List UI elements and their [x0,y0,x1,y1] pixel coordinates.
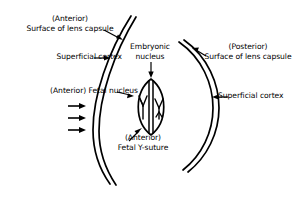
label-anterior-lens-capsule: (Anterior) Surface of lens capsule [18,14,122,33]
label-superficial-cortex-left: Superficial cortex [18,52,122,62]
label-posterior-lens-capsule: (Posterior) Surface of lens capsule [196,42,300,61]
label-embryonic-nucleus-line2: nucleus [112,52,188,62]
light-arrow-2 [68,115,86,121]
light-arrow-1 [68,103,86,109]
light-arrow-3 [68,127,86,133]
label-anterior-fetal-y-suture-line1: (Anterior) [96,133,190,143]
label-anterior-fetal-y-suture-line2: Fetal Y-suture [96,143,190,153]
incident-light-arrows [68,103,86,133]
lens-anatomy-figure: (Anterior) Surface of lens capsule Super… [0,0,302,202]
label-posterior-lens-capsule-line2: Surface of lens capsule [196,52,300,62]
label-embryonic-nucleus: Embryonic nucleus [112,42,188,61]
posterior-y-suture [155,99,163,119]
label-anterior-fetal-nucleus-text: (Anterior) Fetal nucleus [14,86,138,96]
label-anterior-lens-capsule-line2: Surface of lens capsule [18,24,122,34]
anterior-y-suture [139,96,147,119]
label-anterior-fetal-nucleus: (Anterior) Fetal nucleus [14,86,138,96]
label-superficial-cortex-left-text: Superficial cortex [18,52,122,62]
leader-embryonic-nucleus [148,62,153,78]
label-superficial-cortex-right-text: Superficial cortex [218,91,302,101]
label-posterior-lens-capsule-line1: (Posterior) [196,42,300,52]
label-embryonic-nucleus-line1: Embryonic [112,42,188,52]
label-anterior-lens-capsule-line1: (Anterior) [18,14,122,24]
label-superficial-cortex-right: Superficial cortex [218,91,302,101]
label-anterior-fetal-y-suture: (Anterior) Fetal Y-suture [96,133,190,152]
